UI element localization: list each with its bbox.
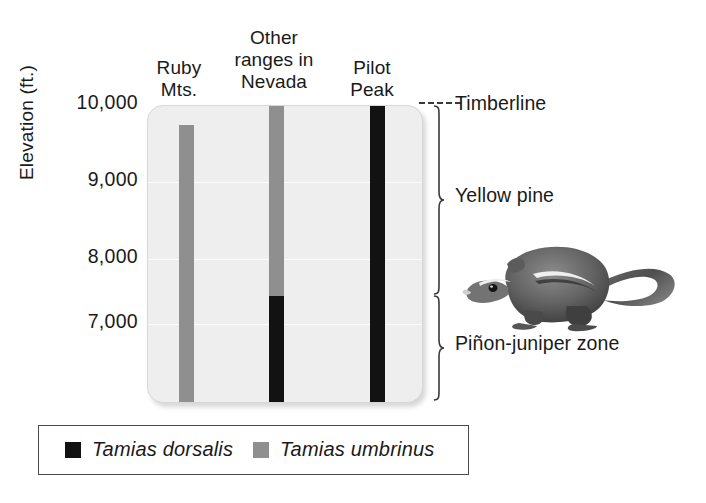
bar-segment-umbrinus-other-ranges <box>269 106 284 296</box>
zone-label-timberline: Timberline <box>455 92 546 115</box>
bracket-yellow-pine <box>432 105 445 295</box>
bar-ruby-mts <box>179 125 194 402</box>
bar-pilot-peak <box>370 106 385 402</box>
bar-segment-dorsalis-other-ranges <box>269 296 284 402</box>
y-tick-label-8000: 8,000 <box>46 247 138 267</box>
bracket-pinon-juniper <box>432 295 445 401</box>
legend-swatch-dorsalis <box>65 442 81 458</box>
y-tick-label-10000: 10,000 <box>46 93 138 113</box>
plot-panel <box>147 105 423 403</box>
y-tick-label-7000: 7,000 <box>46 312 138 332</box>
y-tick-label-9000: 9,000 <box>46 170 138 190</box>
column-header-other-ranges-nevada: Other ranges in Nevada <box>218 27 330 93</box>
legend-label-dorsalis: Tamias dorsalis <box>92 438 233 461</box>
legend: Tamias dorsalis Tamias umbrinus <box>38 425 469 475</box>
bar-other-ranges-nevada <box>269 106 284 402</box>
legend-label-umbrinus: Tamias umbrinus <box>280 438 435 461</box>
bar-segment-umbrinus-ruby-mts <box>179 125 194 402</box>
legend-swatch-umbrinus <box>253 442 269 458</box>
zone-label-yellow-pine: Yellow pine <box>455 184 554 207</box>
legend-entry-tamias-umbrinus: Tamias umbrinus <box>253 438 435 461</box>
chipmunk-illustration <box>455 228 685 338</box>
column-header-ruby-mts: Ruby Mts. <box>138 57 220 101</box>
legend-entry-tamias-dorsalis: Tamias dorsalis <box>65 438 233 461</box>
bar-segment-dorsalis-pilot-peak <box>370 106 385 402</box>
column-header-pilot-peak: Pilot Peak <box>333 57 411 101</box>
